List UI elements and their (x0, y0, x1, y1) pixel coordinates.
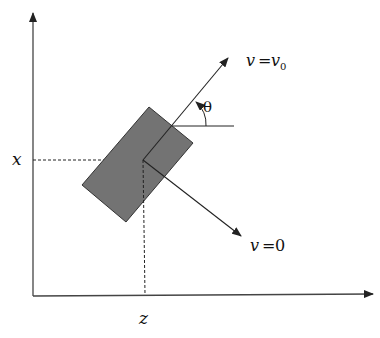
v0-label-v0: v (271, 51, 280, 70)
v-zero-label-val: 0 (275, 236, 285, 255)
label-v-equals-zero: v = 0 (250, 236, 285, 255)
label-v-equals-v0: v = v 0 (246, 51, 286, 72)
v-zero-label-eq: = (262, 236, 275, 255)
v-zero-label-v: v (250, 236, 259, 255)
z-axis-label: z (138, 308, 149, 328)
x-axis-label: x (12, 149, 22, 169)
v0-label-v: v (246, 51, 255, 70)
theta-label: θ (203, 98, 212, 116)
v0-label-eq: = (258, 51, 271, 70)
horizontal-axis (33, 294, 373, 296)
v0-label-sub: 0 (280, 61, 286, 72)
diagram-canvas: x z θ v = v 0 v = 0 (0, 0, 380, 338)
velocity-arrow-zero (143, 160, 241, 236)
plate (82, 107, 193, 222)
